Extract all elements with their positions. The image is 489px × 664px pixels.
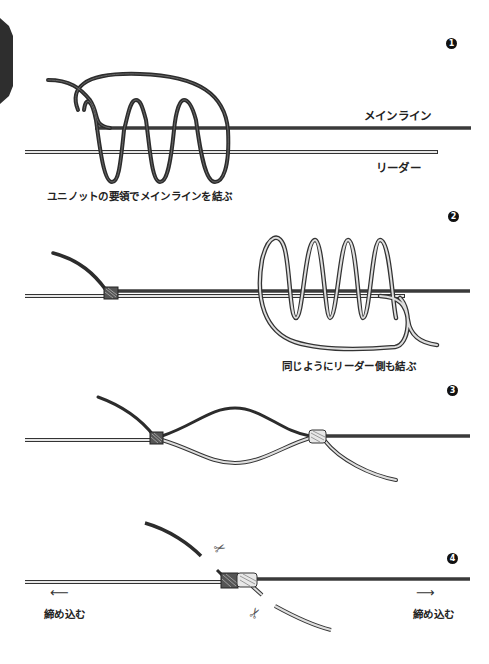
- main-line-label: メインライン: [364, 107, 431, 123]
- leader-label: リーダー: [376, 159, 421, 175]
- step-2-badge: 2: [448, 211, 459, 222]
- step-1-badge: 1: [446, 38, 457, 49]
- step-3-drawing: [25, 397, 470, 480]
- step-2-drawing: [25, 238, 470, 349]
- arrow-right-icon: ⟶: [416, 586, 435, 599]
- step-1-caption: ユニノットの要領でメインラインを結ぶ: [47, 188, 232, 203]
- step-2-caption: 同じようにリーダー側も結ぶ: [282, 358, 416, 373]
- arrow-left-icon: ⟵: [50, 586, 69, 599]
- knot-diagram: 1 2 3 4 メインライン リーダー ユニノットの要領でメインラインを結ぶ 同…: [0, 0, 489, 664]
- tighten-left-label: 締め込む: [44, 606, 85, 621]
- step-3-badge: 3: [447, 385, 458, 396]
- knot-illustration: [0, 0, 489, 664]
- step-4-badge: 4: [447, 553, 458, 564]
- tighten-right-label: 締め込む: [413, 606, 454, 621]
